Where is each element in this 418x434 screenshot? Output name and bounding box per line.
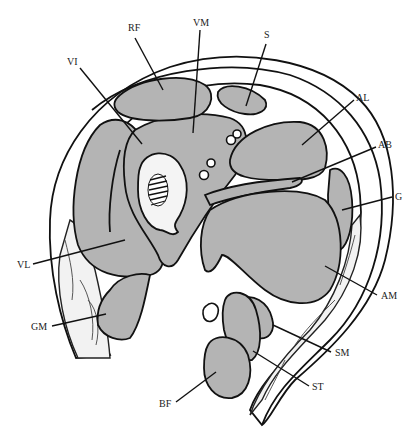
label-G: G <box>395 192 402 202</box>
diagram-canvas <box>0 0 418 434</box>
thigh-cross-section-diagram: RF VM S VI AL AB G VL AM GM SM ST BF <box>0 0 418 434</box>
sciatic-nerve-outline <box>203 303 218 321</box>
label-RF: RF <box>128 23 140 33</box>
label-AL: AL <box>356 93 369 103</box>
label-AM: AM <box>381 291 397 301</box>
profunda-vessel-1 <box>200 171 209 180</box>
label-S: S <box>264 30 270 40</box>
label-VL: VL <box>17 260 30 270</box>
label-AB: AB <box>378 140 392 150</box>
profunda-vessel-2 <box>207 159 215 167</box>
muscle-sartorius <box>218 86 267 114</box>
label-BF: BF <box>159 399 171 409</box>
muscle-gluteus-maximus <box>98 274 150 340</box>
label-GM: GM <box>31 322 47 332</box>
muscle-adductor-magnus <box>201 191 341 303</box>
label-VI: VI <box>67 57 78 67</box>
femoral-vessel-2 <box>233 130 241 138</box>
bone-marrow-hatch <box>148 174 168 206</box>
label-SM: SM <box>335 348 349 358</box>
muscle-biceps-femoris <box>204 337 250 398</box>
label-VM: VM <box>193 18 209 28</box>
label-ST: ST <box>312 382 324 392</box>
